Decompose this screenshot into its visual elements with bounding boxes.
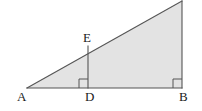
vertex-label-d: D xyxy=(85,90,94,103)
vertex-label-a: A xyxy=(17,90,26,103)
vertex-label-e: E xyxy=(83,31,91,44)
vertex-label-b: B xyxy=(179,90,188,103)
figure-canvas xyxy=(0,0,202,111)
geometry-figure: A D B E xyxy=(0,0,202,111)
